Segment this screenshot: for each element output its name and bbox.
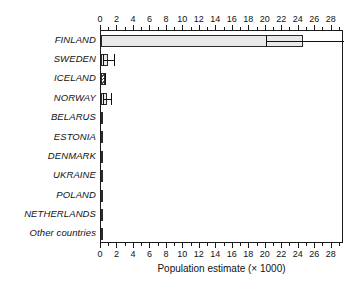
y-axis-label-poland: POLAND [0,190,96,200]
x-axis-bottom-tick [199,243,200,248]
x-axis-bottom-tick [125,243,126,246]
y-axis-label-denmark: DENMARK [0,151,96,161]
x-axis-bottom-tick [108,243,109,246]
x-axis-bottom-tick [232,243,233,248]
x-axis-bottom-tick [248,243,249,248]
x-axis-bottom-tick [322,243,323,246]
plot-area [100,30,343,243]
x-axis-bottom-tick [174,243,175,246]
x-axis-bottom-tick [265,243,266,248]
x-axis-bottom-tick [116,243,117,248]
y-axis-label-netherlands: NETHERLANDS [0,209,96,219]
y-axis-label-belarus: BELARUS [0,112,96,122]
x-axis-bottom-tick [100,243,101,248]
y-axis-label-finland: FINLAND [0,35,96,45]
x-axis-bottom-tick [273,243,274,246]
bar-belarus [101,112,103,124]
error-bar-cap [105,73,106,85]
error-bar-line [103,99,111,100]
x-axis-bottom-tick [182,243,183,248]
x-axis-bottom-tick [281,243,282,248]
y-axis-label-norway: NORWAY [0,93,96,103]
bar-estonia [101,131,103,143]
x-axis-bottom-tick [298,243,299,248]
x-axis-top-tick-label: 28 [321,14,341,24]
error-bar-line [103,60,115,61]
y-axis-label-ukraine: UKRAINE [0,170,96,180]
bar-denmark [101,151,103,163]
x-axis-bottom-tick [166,243,167,248]
x-axis-bottom-tick [158,243,159,246]
bar-ukraine [101,170,103,182]
x-axis-bottom-tick [133,243,134,248]
x-axis-bottom-tick [149,243,150,248]
y-axis-label-sweden: SWEDEN [0,54,96,64]
bar-netherlands [101,209,103,221]
y-axis-label-iceland: ICELAND [0,73,96,83]
x-axis-bottom: 0246810121416182022242628 [100,243,343,259]
bar-poland [101,190,103,202]
x-axis-bottom-tick [215,243,216,248]
y-axis-label-estonia: ESTONIA [0,132,96,142]
error-bar-line [266,41,344,42]
x-axis-bottom-tick [240,243,241,246]
y-axis-category-labels: FINLANDSWEDENICELANDNORWAYBELARUSESTONIA… [0,30,96,243]
x-axis-title: Population estimate (× 1000) [100,263,343,274]
error-bar-cap [103,54,104,66]
error-bar-cap [103,93,104,105]
error-bar-cap [114,54,115,66]
x-axis-bottom-tick [257,243,258,246]
x-axis-bottom-tick [224,243,225,246]
bar-other-countries [101,228,103,240]
x-axis-bottom-tick [207,243,208,246]
x-axis-bottom-tick [331,243,332,248]
y-axis-label-other-countries: Other countries [0,228,96,238]
x-axis-bottom-tick [141,243,142,246]
x-axis-bottom-tick [314,243,315,248]
x-axis-bottom-tick [306,243,307,246]
x-axis-bottom-tick [289,243,290,246]
x-axis-bottom-tick [191,243,192,246]
x-axis-bottom-tick [339,243,340,246]
x-axis-top: 0246810121416182022242628 [100,14,343,30]
chart-figure: 0246810121416182022242628 FINLANDSWEDENI… [0,0,351,286]
x-axis-bottom-tick-label: 28 [321,249,341,259]
error-bar-cap [266,35,267,47]
error-bar-cap [111,93,112,105]
